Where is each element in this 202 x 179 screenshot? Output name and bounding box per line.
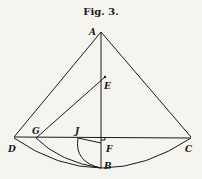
- label-F: F: [105, 144, 113, 154]
- line-GE: [36, 77, 105, 138]
- geometry-diagram: A E G J D F C B: [0, 0, 202, 179]
- label-A: A: [88, 27, 96, 37]
- label-J: J: [73, 126, 80, 136]
- label-B: B: [103, 161, 112, 171]
- label-G: G: [32, 126, 40, 136]
- label-E: E: [103, 81, 111, 91]
- line-DC: [14, 137, 191, 138]
- figure: Fig. 3. A E G J D F: [0, 0, 202, 179]
- point-E-dot: [104, 76, 106, 78]
- label-C: C: [185, 144, 193, 154]
- line-AC: [101, 32, 191, 137]
- line-AD: [14, 32, 101, 137]
- label-D: D: [7, 144, 16, 154]
- figure-title: Fig. 3.: [0, 6, 202, 17]
- line-JF: [78, 138, 101, 143]
